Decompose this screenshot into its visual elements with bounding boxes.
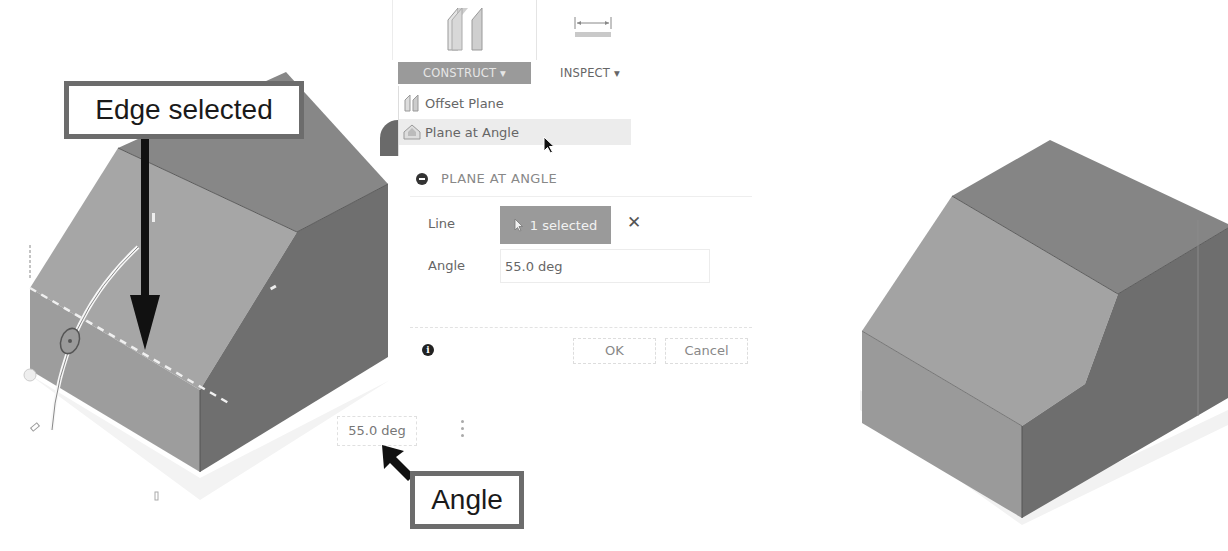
construct-menu-button[interactable]: CONSTRUCT ▾	[398, 62, 531, 84]
mouse-cursor-icon	[543, 136, 557, 154]
ok-button[interactable]: OK	[573, 338, 656, 364]
clear-selection-close-icon[interactable]: ✕	[627, 212, 641, 232]
line-label: Line	[428, 216, 455, 231]
line-selection-chip[interactable]: 1 selected	[500, 206, 611, 244]
select-cursor-icon	[514, 218, 524, 232]
dialog-title: PLANE AT ANGLE	[441, 171, 557, 186]
edge-selected-callout: Edge selected	[64, 81, 304, 139]
cancel-button[interactable]: Cancel	[665, 338, 748, 364]
inspect-menu-button[interactable]: INSPECT ▾	[550, 62, 630, 84]
offset-plane-icon	[403, 94, 421, 112]
dialog-body: Line 1 selected ✕ Angle 55.0 deg	[410, 196, 752, 328]
right-solid-model	[840, 140, 1228, 540]
plane-at-angle-dialog: PLANE AT ANGLE Line 1 selected ✕ Angle 5…	[408, 163, 755, 378]
angle-callout: Angle	[410, 471, 524, 529]
more-options-icon[interactable]	[461, 420, 464, 441]
menu-item-plane-at-angle[interactable]: Plane at Angle	[399, 119, 631, 145]
angle-label: Angle	[428, 258, 465, 273]
dialog-header[interactable]: PLANE AT ANGLE	[416, 171, 557, 186]
ribbon-divider	[536, 0, 537, 60]
angle-input[interactable]: 55.0 deg	[500, 249, 710, 283]
collapse-icon[interactable]	[416, 173, 428, 185]
viewport-right-model[interactable]	[840, 140, 1228, 540]
canvas-angle-input[interactable]: 55.0 deg	[337, 416, 417, 446]
menu-item-offset-plane[interactable]: Offset Plane	[399, 90, 631, 116]
construct-icon[interactable]	[444, 6, 488, 54]
info-icon[interactable]: i	[422, 344, 434, 356]
ribbon-divider	[392, 0, 393, 60]
plane-at-angle-icon	[403, 123, 421, 141]
construct-dropdown: Offset Plane Plane at Angle	[398, 86, 631, 156]
measure-icon[interactable]	[573, 15, 613, 39]
